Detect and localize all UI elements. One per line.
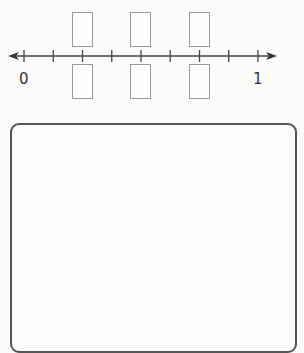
number-line [0,0,304,110]
answer-box-top[interactable] [189,12,210,47]
answer-box-bottom[interactable] [189,64,210,99]
answer-box-bottom[interactable] [72,64,93,99]
work-area-box[interactable] [10,123,297,353]
label-one: 1 [253,70,263,88]
label-zero: 0 [19,70,29,88]
answer-box-top[interactable] [130,12,151,47]
answer-box-bottom[interactable] [130,64,151,99]
answer-box-top[interactable] [72,12,93,47]
